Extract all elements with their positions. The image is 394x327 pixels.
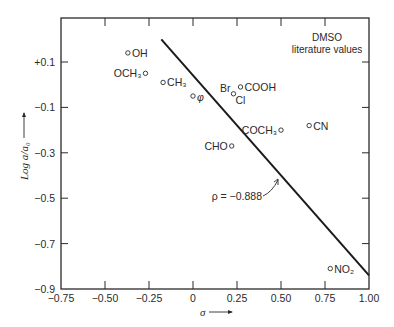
data-point [279, 128, 283, 132]
x-tick-label: 0.25 [227, 292, 248, 304]
point-label: Cl [235, 94, 245, 106]
data-point [126, 51, 130, 55]
x-tick-label: 0.50 [271, 292, 292, 304]
data-point [230, 144, 234, 148]
y-tick-label: −0.9 [34, 283, 55, 295]
point-label: OCH₃ [114, 67, 142, 79]
y-tick-label: +0.1 [34, 56, 55, 68]
x-tick-label: 1.00 [359, 292, 380, 304]
fit-line [161, 39, 369, 275]
point-label: COOH [245, 81, 277, 93]
annotation-dmso: DMSO [312, 32, 342, 43]
x-axis-ticks: −0.75−0.50−0.2500.250.500.751.00 [48, 18, 380, 304]
data-point [238, 85, 242, 89]
rho-annotation: ρ = −0.888 [212, 190, 263, 202]
data-point [191, 94, 195, 98]
x-tick-label: 0.75 [315, 292, 336, 304]
x-tick-label: 0 [190, 292, 196, 304]
annotations: DMSOliterature valuesρ = −0.888 [212, 32, 363, 202]
y-tick-label: −0.5 [34, 192, 55, 204]
point-label: Br [220, 82, 231, 94]
x-axis-title: σ [200, 306, 206, 318]
data-point [143, 71, 147, 75]
hammett-plot: −0.75−0.50−0.2500.250.500.751.00 +0.1−0.… [0, 0, 394, 327]
data-point [328, 266, 332, 270]
point-label: CH₃ [167, 76, 186, 88]
x-tick-label: −0.25 [136, 292, 163, 304]
y-tick-label: −0.1 [34, 101, 55, 113]
point-label: CHO [204, 140, 227, 152]
y-tick-label: −0.3 [34, 147, 55, 159]
y-tick-label: −0.7 [34, 238, 55, 250]
point-label: φ [197, 91, 204, 103]
annotation-literature: literature values [292, 44, 363, 55]
point-label: CN [313, 120, 328, 132]
plot-frame [61, 18, 369, 289]
data-point [307, 123, 311, 127]
data-points: OHOCH₃CH₃φCOOHBrClCOCH₃CHOCNNO₂ [114, 47, 354, 275]
x-tick-label: −0.50 [92, 292, 119, 304]
point-label: OH [132, 47, 148, 59]
point-label: COCH₃ [242, 124, 277, 136]
y-axis-title: Log a/a₀ [18, 142, 30, 181]
data-point [161, 80, 165, 84]
point-label: NO₂ [334, 263, 354, 275]
plot-border [61, 18, 369, 289]
